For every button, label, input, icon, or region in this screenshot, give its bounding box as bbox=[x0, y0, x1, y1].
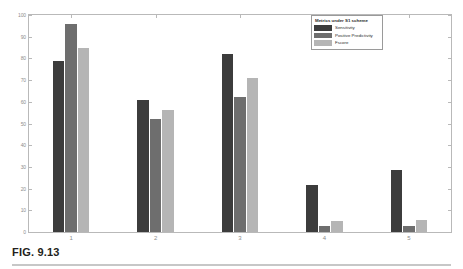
y-tick-mark bbox=[29, 189, 32, 190]
y-tick-mark bbox=[448, 15, 451, 16]
legend-title: Metrics under S1 scheme bbox=[314, 18, 380, 24]
y-tick-mark bbox=[29, 124, 32, 125]
y-tick-label: 80 bbox=[2, 56, 26, 61]
legend-entry: Sensitivity bbox=[314, 25, 380, 32]
chart-legend: Metrics under S1 scheme SensitivityPosit… bbox=[311, 15, 383, 50]
bar-sensitivity-group-4 bbox=[306, 185, 318, 232]
x-tick-mark bbox=[240, 15, 241, 18]
legend-entries: SensitivityPositive PredictivityFscore bbox=[314, 25, 380, 47]
y-tick-label: 50 bbox=[2, 121, 26, 126]
y-tick-mark bbox=[29, 167, 32, 168]
chart-plot-area bbox=[28, 14, 452, 233]
x-tick-label: 5 bbox=[394, 235, 424, 241]
y-tick-mark bbox=[29, 232, 32, 233]
legend-swatch-icon bbox=[314, 40, 332, 46]
x-tick-label: 2 bbox=[141, 235, 171, 241]
y-tick-mark bbox=[448, 80, 451, 81]
y-tick-mark bbox=[29, 80, 32, 81]
legend-label: Positive Predictivity bbox=[335, 34, 373, 38]
caption-divider bbox=[12, 264, 451, 266]
legend-entry: Fscore bbox=[314, 40, 380, 47]
legend-swatch-icon bbox=[314, 25, 332, 31]
y-tick-label: 90 bbox=[2, 34, 26, 39]
y-tick-label: 100 bbox=[2, 13, 26, 18]
y-tick-mark bbox=[29, 210, 32, 211]
y-tick-label: 70 bbox=[2, 78, 26, 83]
legend-label: Sensitivity bbox=[335, 26, 355, 30]
bar-fscore-group-2 bbox=[162, 110, 174, 232]
bar-fscore-group-3 bbox=[247, 78, 259, 232]
x-tick-mark bbox=[156, 15, 157, 18]
y-tick-mark bbox=[29, 145, 32, 146]
y-tick-label: 20 bbox=[2, 186, 26, 191]
bar-sensitivity-group-1 bbox=[53, 61, 65, 232]
y-tick-mark bbox=[29, 37, 32, 38]
x-tick-label: 4 bbox=[309, 235, 339, 241]
bar-fscore-group-1 bbox=[78, 48, 90, 232]
bar-positive-predictivity-group-5 bbox=[403, 226, 415, 233]
y-tick-mark bbox=[448, 232, 451, 233]
bar-positive-predictivity-group-3 bbox=[234, 97, 246, 232]
bar-fscore-group-4 bbox=[331, 221, 343, 232]
y-tick-label: 10 bbox=[2, 208, 26, 213]
y-tick-mark bbox=[448, 37, 451, 38]
y-tick-label: 0 bbox=[2, 230, 26, 235]
legend-swatch-icon bbox=[314, 33, 332, 39]
legend-entry: Positive Predictivity bbox=[314, 32, 380, 39]
bar-sensitivity-group-3 bbox=[222, 54, 234, 232]
y-tick-mark bbox=[448, 102, 451, 103]
x-tick-mark bbox=[71, 15, 72, 18]
y-tick-mark bbox=[448, 189, 451, 190]
y-tick-mark bbox=[29, 58, 32, 59]
y-tick-label: 40 bbox=[2, 143, 26, 148]
bar-positive-predictivity-group-1 bbox=[65, 24, 77, 232]
y-tick-mark bbox=[448, 124, 451, 125]
y-tick-mark bbox=[29, 15, 32, 16]
bar-positive-predictivity-group-4 bbox=[319, 226, 331, 233]
bar-sensitivity-group-5 bbox=[391, 170, 403, 232]
chart-plot-inner bbox=[29, 15, 451, 232]
y-tick-label: 30 bbox=[2, 164, 26, 169]
bar-fscore-group-5 bbox=[416, 220, 428, 232]
y-tick-mark bbox=[448, 145, 451, 146]
bar-sensitivity-group-2 bbox=[137, 100, 149, 232]
figure-caption: FIG. 9.13 bbox=[12, 246, 60, 258]
y-tick-mark bbox=[448, 167, 451, 168]
x-tick-label: 1 bbox=[56, 235, 86, 241]
y-tick-mark bbox=[448, 210, 451, 211]
y-tick-mark bbox=[448, 58, 451, 59]
y-tick-mark bbox=[29, 102, 32, 103]
x-tick-label: 3 bbox=[225, 235, 255, 241]
legend-label: Fscore bbox=[335, 41, 348, 45]
x-tick-mark bbox=[409, 15, 410, 18]
bar-positive-predictivity-group-2 bbox=[150, 119, 162, 232]
y-tick-label: 60 bbox=[2, 99, 26, 104]
figure-container: 0102030405060708090100 12345 Metrics und… bbox=[0, 0, 463, 269]
